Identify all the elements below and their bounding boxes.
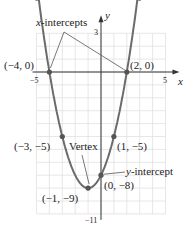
data-point: [60, 134, 65, 139]
label-pt-m1-m9: (−1, −9): [42, 193, 78, 204]
label-vertex: Vertex: [69, 141, 98, 152]
data-point: [86, 186, 91, 191]
label-pt-m4-0: (−4, 0): [4, 60, 34, 71]
label-pt-2-0: (2, 0): [130, 60, 154, 71]
tick-x-m5: −5: [30, 77, 39, 85]
label-pt-1-m5: (1, −5): [117, 141, 147, 152]
tick-x-5: 5: [163, 77, 167, 85]
tick-y-3: 3: [94, 29, 98, 37]
axis-label-x: x: [178, 76, 183, 87]
data-point: [47, 69, 52, 74]
label-y-intercept: y-intercept: [126, 166, 173, 177]
tick-y-m11: −11: [85, 217, 97, 225]
label-x-intercepts: x-intercepts: [36, 17, 87, 28]
label-pt-0-m8: (0, −8): [104, 180, 134, 191]
data-point: [111, 134, 116, 139]
data-point: [124, 69, 129, 74]
data-point: [98, 173, 103, 178]
axis-label-y: y: [105, 10, 110, 21]
label-pt-m3-m5: (−3, −5): [14, 141, 50, 152]
